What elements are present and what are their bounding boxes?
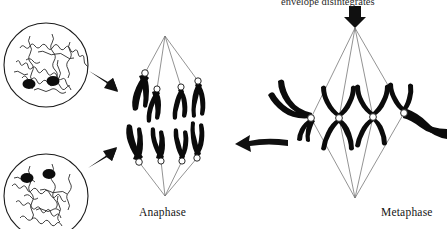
daughter-nucleus-lower [4, 154, 88, 229]
mitosis-diagram: envelope disintegrates Anaphase Metaphas… [0, 0, 447, 229]
spindle-fibers-anaphase-bottom [139, 158, 197, 196]
nucleolus-lower-left [21, 173, 34, 183]
nucleolus-upper-left [23, 79, 36, 89]
nucleolus-lower-right [43, 169, 56, 179]
centromeres-anaphase-lower [136, 155, 201, 166]
anaphase-chromosomes-upper [132, 74, 205, 123]
metaphase-label: Metaphase [381, 206, 433, 218]
anaphase-label: Anaphase [139, 206, 186, 218]
spindle-fibers-metaphase-top [311, 28, 404, 118]
metaphase-spindle [268, 28, 447, 198]
anaphase-to-lower-nucleus-arrow [88, 147, 117, 168]
nuclear-envelope-upper [4, 23, 88, 107]
spindle-fibers-anaphase-top [145, 36, 198, 89]
metaphase-to-anaphase-arrow [235, 135, 288, 152]
anaphase-chromosomes-lower [126, 121, 204, 161]
anaphase-to-upper-nucleus-arrow [89, 71, 118, 92]
daughter-nucleus-upper [4, 23, 91, 107]
envelope-arrow [344, 6, 366, 28]
diagram-canvas [0, 0, 447, 229]
metaphase-chromosomes [268, 80, 447, 151]
centromeres-metaphase [308, 110, 408, 122]
envelope-caption: envelope disintegrates [281, 0, 375, 7]
nuclear-envelope-lower [4, 154, 88, 229]
nucleolus-upper-right [47, 76, 60, 86]
spindle-fibers-metaphase-bottom [311, 113, 404, 198]
anaphase-spindle [126, 36, 205, 196]
